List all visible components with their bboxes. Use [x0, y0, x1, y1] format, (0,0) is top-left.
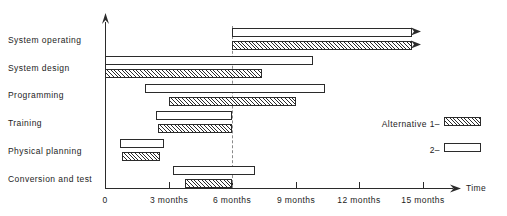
x-tick-label-9: 9 months [266, 195, 326, 205]
legend-label-alternative-1: Alternative 1– [330, 119, 440, 129]
row-label-training: Training [8, 118, 42, 128]
x-tick-label-12: 12 months [327, 195, 391, 205]
row-label-physical-planning: Physical planning [8, 146, 82, 156]
x-tick-15 [423, 182, 424, 189]
bar-system-operating-alt1 [232, 41, 412, 50]
bar-physical-planning-alt1 [122, 152, 160, 161]
row-label-system-operating: System operating [8, 35, 81, 45]
x-axis-line [105, 188, 453, 189]
y-axis-line [105, 22, 106, 189]
bar-conversion-and-test-alt1 [185, 179, 232, 188]
bar-system-design-alt2 [105, 56, 313, 65]
now-marker-line [232, 26, 233, 188]
gantt-chart: System operating System design Programmi… [0, 0, 507, 216]
bar-arrow-system-operating-alt2-icon [408, 26, 422, 39]
y-axis-arrow-icon [99, 13, 112, 25]
x-tick-12 [359, 182, 360, 189]
legend-swatch-alternative-2 [444, 143, 481, 152]
x-tick-0 [105, 182, 106, 189]
bar-conversion-and-test-alt2 [173, 166, 255, 175]
x-tick-9 [296, 182, 297, 189]
x-tick-label-0: 0 [85, 195, 125, 205]
bar-programming-alt1 [169, 97, 296, 106]
x-axis-arrow-icon [448, 183, 462, 194]
bar-training-alt1 [158, 124, 232, 133]
legend-label-alternative-2: 2– [390, 145, 440, 155]
x-axis-title: Time [466, 183, 486, 193]
bar-system-design-alt1 [105, 69, 262, 78]
row-label-system-design: System design [8, 63, 70, 73]
bar-physical-planning-alt2 [120, 139, 164, 148]
bar-arrow-system-operating-alt1-icon [408, 39, 422, 52]
x-tick-label-15: 15 months [391, 195, 455, 205]
bar-system-operating-alt2 [232, 28, 412, 37]
x-tick-label-3: 3 months [139, 195, 199, 205]
row-label-programming: Programming [8, 90, 64, 100]
bar-programming-alt2 [145, 84, 325, 93]
x-tick-label-6: 6 months [202, 195, 262, 205]
legend-swatch-alternative-1 [444, 117, 481, 126]
row-label-conversion-and-test: Conversion and test [8, 174, 92, 184]
x-tick-3 [169, 182, 170, 189]
bar-training-alt2 [156, 111, 232, 120]
